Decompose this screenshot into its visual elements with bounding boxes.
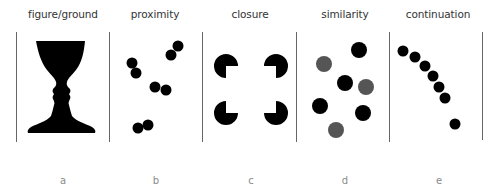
black-dot (337, 75, 353, 91)
dot (440, 93, 451, 104)
continuation-dots (398, 46, 461, 130)
dot (434, 82, 445, 93)
gestalt-principles-figure: figure/ground proximity closure similari… (0, 0, 497, 195)
pacman-shape (214, 101, 238, 125)
panel-letter-d: d (342, 175, 348, 186)
dot (161, 85, 172, 96)
pacman-shape (214, 54, 238, 78)
panel-letter-c: c (248, 175, 254, 186)
gray-dot (328, 122, 344, 138)
dot (127, 58, 138, 69)
dot (173, 41, 184, 52)
dot (450, 119, 461, 130)
gray-dot (316, 56, 332, 72)
rubin-vase-icon (28, 41, 96, 133)
proximity-dots (127, 41, 184, 134)
dot (150, 82, 161, 93)
dot (398, 46, 409, 57)
similarity-dots (312, 42, 374, 138)
panel-letter-e: e (436, 175, 442, 186)
dot (143, 120, 154, 131)
dot (166, 50, 177, 61)
dot (420, 61, 431, 72)
dot (410, 52, 421, 63)
black-dot (351, 42, 367, 58)
pacman-shape (264, 101, 288, 125)
dot (133, 123, 144, 134)
panel-letter-b: b (153, 175, 159, 186)
gray-dot (358, 79, 374, 95)
closure-pacmen (214, 54, 288, 125)
pacman-shape (264, 54, 288, 78)
panel-letter-a: a (60, 175, 66, 186)
dot (131, 68, 142, 79)
figure-graphics (0, 0, 497, 195)
black-dot (355, 105, 371, 121)
dot (428, 71, 439, 82)
black-dot (312, 98, 328, 114)
